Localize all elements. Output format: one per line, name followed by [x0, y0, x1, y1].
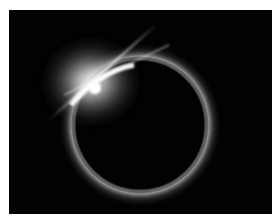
diamond-point [89, 82, 101, 94]
eclipse-illustration [9, 10, 272, 214]
eclipse-photo: Solar eclipse with bright diamond ring f… [9, 10, 272, 214]
